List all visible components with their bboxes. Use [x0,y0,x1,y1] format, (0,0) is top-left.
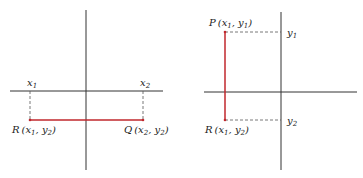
point-Q [142,119,145,122]
point-R-left [29,119,32,122]
label-x2: x2 [140,77,151,90]
label-point-R-right: R(x1, y2) [204,124,249,137]
right-diagram: y1 y2 P(x1, y1) R(x1, y2) [204,12,357,170]
point-R-right [224,119,227,122]
label-point-R-left: R(x1, y2) [11,124,56,137]
point-P [224,31,227,34]
figure: x1 x2 R(x1, y2) Q(x2, y2) y1 y2 P(x1, y1… [0,0,363,178]
label-y1: y1 [286,27,297,40]
left-diagram: x1 x2 R(x1, y2) Q(x2, y2) [10,10,169,170]
label-point-Q: Q(x2, y2) [124,124,169,137]
label-x1: x1 [27,77,37,90]
label-point-P: P(x1, y1) [208,17,252,30]
label-y2: y2 [286,115,298,128]
